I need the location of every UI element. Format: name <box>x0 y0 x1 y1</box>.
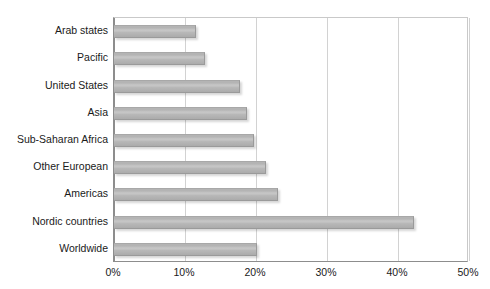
value-tick-label: 40% <box>367 265 427 279</box>
bar <box>114 188 278 201</box>
value-tick-label: 20% <box>225 265 285 279</box>
bar <box>114 52 205 65</box>
bar <box>114 134 254 147</box>
bar <box>114 161 266 174</box>
value-axis-labels: 0%10%20%30%40%50% <box>0 265 490 283</box>
gridline-50pct <box>469 18 470 261</box>
value-tick-label: 0% <box>83 265 143 279</box>
bar <box>114 25 196 38</box>
bar <box>114 216 414 229</box>
category-label: Worldwide <box>3 242 108 255</box>
category-label: Asia <box>3 106 108 119</box>
value-tick-label: 10% <box>154 265 214 279</box>
category-label: Sub-Saharan Africa <box>3 133 108 146</box>
category-axis-labels: Arab statesPacificUnited StatesAsiaSub-S… <box>0 17 108 262</box>
value-tick-label: 50% <box>438 265 490 279</box>
category-label: Americas <box>3 187 108 200</box>
bar-chart: Arab statesPacificUnited StatesAsiaSub-S… <box>0 0 490 289</box>
category-label: Arab states <box>3 24 108 37</box>
category-label: United States <box>3 79 108 92</box>
category-label: Other European <box>3 160 108 173</box>
bar <box>114 80 240 93</box>
bar <box>114 243 257 256</box>
bars-layer <box>114 18 467 261</box>
value-tick-label: 30% <box>296 265 356 279</box>
category-label: Pacific <box>3 51 108 64</box>
bar <box>114 107 247 120</box>
category-label: Nordic countries <box>3 215 108 228</box>
plot-area <box>113 17 468 262</box>
